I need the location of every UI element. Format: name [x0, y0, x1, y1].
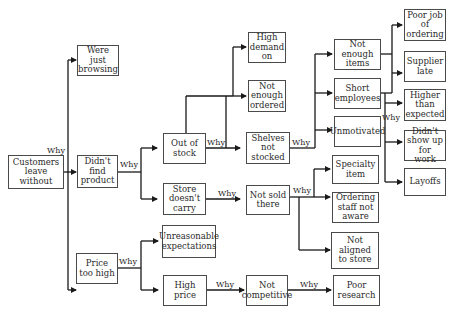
node-label: Not enough items [337, 40, 378, 69]
node-label: High price [166, 281, 204, 300]
node-short-employees: Short employees [334, 78, 381, 109]
node-label: Ordering staff not aware [335, 193, 376, 222]
node-high-price: High price [163, 275, 207, 306]
node-out-of-stock: Out of stock [163, 133, 206, 164]
node-not-aligned: Not aligned to store [331, 232, 379, 269]
node-label: Not sold there [249, 191, 287, 210]
node-label: Were just browsing [78, 46, 118, 75]
node-label: Specialty item [335, 160, 376, 179]
five-whys-diagram: Customers leave without Why Were just br… [0, 0, 452, 313]
node-label: Unreasonable expectations [159, 232, 219, 251]
why-label: Why [47, 146, 65, 155]
node-label: Customers leave without [11, 158, 61, 187]
node-label: Higher than expected [406, 91, 445, 120]
node-supplier-late: Supplier late [404, 51, 446, 82]
node-label: Didn't show up for work [407, 127, 443, 165]
node-label: Poor research [336, 281, 377, 300]
node-label: Price too high [79, 259, 115, 278]
node-label: Not competitive [242, 281, 293, 300]
node-price-high: Price too high [76, 253, 118, 284]
node-label: Poor job of ordering [406, 11, 443, 40]
why-label: Why [382, 113, 400, 122]
node-didnt-show: Didn't show up for work [404, 130, 446, 161]
node-high-demand: High demand on [248, 32, 286, 63]
node-label: Shelves not stocked [249, 134, 287, 163]
node-label: Short employees [335, 84, 381, 103]
node-not-enough-items: Not enough items [334, 39, 381, 70]
node-shelves-not-stocked: Shelves not stocked [246, 132, 290, 164]
node-not-sold-there: Not sold there [246, 185, 290, 215]
node-higher-expected: Higher than expected [404, 89, 446, 121]
why-label: Why [293, 186, 311, 195]
node-ordering-staff: Ordering staff not aware [332, 192, 379, 223]
why-label: Why [207, 138, 225, 147]
why-label: Why [120, 160, 138, 169]
why-label: Why [218, 189, 236, 198]
node-label: Didn't find product [80, 157, 115, 186]
node-label: Layoffs [409, 177, 440, 187]
node-specialty-item: Specialty item [332, 155, 379, 184]
node-not-competitive: Not competitive [246, 275, 288, 306]
node-layoffs: Layoffs [404, 168, 446, 196]
node-not-enough-ordered: Not enough ordered [248, 80, 286, 112]
connector-lines [0, 0, 452, 313]
node-label: Store doesn't carry [166, 185, 203, 214]
node-didnt-find: Didn't find product [77, 155, 118, 188]
node-label: Out of stock [166, 139, 203, 158]
why-label: Why [300, 280, 318, 289]
node-unmotivated: Unmotivated [334, 116, 381, 147]
node-browsing: Were just browsing [77, 45, 119, 76]
node-label: Not aligned to store [334, 236, 376, 265]
node-label: Not enough ordered [250, 82, 284, 111]
node-poor-research: Poor research [333, 275, 380, 306]
node-label: Supplier late [407, 57, 444, 76]
node-poor-job: Poor job of ordering [404, 9, 446, 41]
node-unreasonable: Unreasonable expectations [162, 225, 216, 258]
node-label: Unmotivated [330, 127, 386, 137]
why-label: Why [119, 257, 137, 266]
why-label: Why [292, 138, 310, 147]
node-store-doesnt-carry: Store doesn't carry [163, 183, 206, 215]
node-root: Customers leave without [8, 155, 64, 189]
node-label: High demand on [250, 33, 285, 62]
why-label: Why [216, 280, 234, 289]
